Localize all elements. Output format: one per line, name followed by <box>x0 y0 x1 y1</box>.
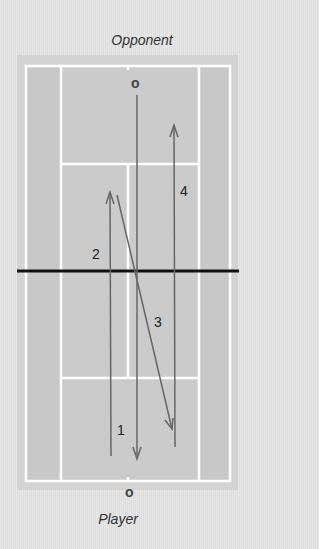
shot-number-2: 2 <box>92 246 100 262</box>
tennis-court-diagram: 1 2 3 4 o o <box>0 0 265 549</box>
opponent-position-marker: o <box>131 75 140 91</box>
shot-number-3: 3 <box>154 314 162 330</box>
shot-number-4: 4 <box>180 183 188 199</box>
shot-4-path <box>174 125 175 447</box>
player-label: Player <box>58 511 178 527</box>
shot-number-1: 1 <box>117 422 125 438</box>
left-doubles-alley <box>27 67 60 480</box>
right-doubles-alley <box>200 67 229 480</box>
shot-2-path <box>110 192 111 456</box>
player-position-marker: o <box>125 484 134 500</box>
